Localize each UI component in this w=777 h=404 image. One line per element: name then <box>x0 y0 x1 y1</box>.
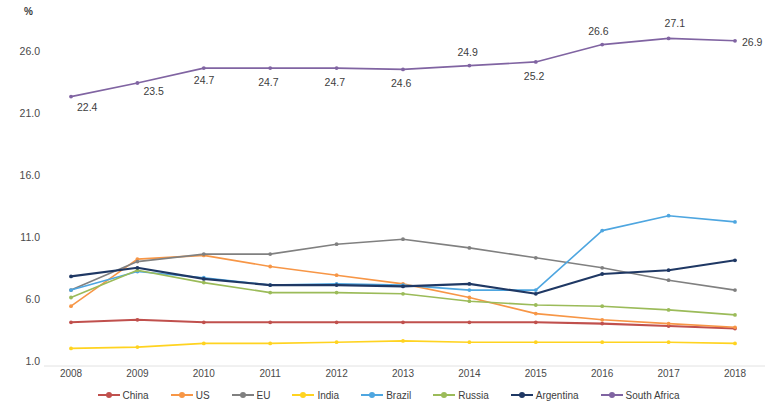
data-point-marker <box>69 275 73 279</box>
data-point-marker <box>534 60 538 64</box>
data-point-marker <box>600 43 604 47</box>
data-point-label: 23.5 <box>143 85 163 97</box>
plot-area <box>0 0 777 404</box>
data-point-marker <box>667 214 671 218</box>
data-point-marker <box>268 291 272 295</box>
data-point-marker <box>401 292 405 296</box>
data-point-marker <box>69 347 73 351</box>
data-point-marker <box>335 320 339 324</box>
data-point-marker <box>600 229 604 233</box>
data-point-marker <box>468 288 472 292</box>
data-point-marker <box>733 258 737 262</box>
data-point-marker <box>335 273 339 277</box>
legend-item-china[interactable]: China <box>98 390 149 401</box>
x-axis-tick-label: 2017 <box>639 368 699 379</box>
legend-item-us[interactable]: US <box>171 390 210 401</box>
series-china <box>69 318 737 331</box>
legend-swatch-icon <box>171 390 193 400</box>
series-brazil <box>69 214 737 292</box>
data-point-marker <box>600 272 604 276</box>
data-point-marker <box>733 39 737 43</box>
data-point-marker <box>136 318 140 322</box>
series-argentina <box>69 258 737 295</box>
data-point-marker <box>69 304 73 308</box>
legend-swatch-icon <box>433 390 455 400</box>
data-point-marker <box>401 339 405 343</box>
legend-item-south-africa[interactable]: South Africa <box>601 390 680 401</box>
data-point-marker <box>202 252 206 256</box>
legend-swatch-icon <box>98 390 120 400</box>
data-point-marker <box>335 283 339 287</box>
data-point-marker <box>202 281 206 285</box>
data-point-label: 27.1 <box>665 17 685 29</box>
data-point-marker <box>335 66 339 70</box>
chart-legend: ChinaUSEUIndiaBrazilRussiaArgentinaSouth… <box>0 386 777 404</box>
data-point-marker <box>468 320 472 324</box>
data-point-marker <box>600 322 604 326</box>
data-point-label: 26.9 <box>742 36 762 48</box>
data-point-marker <box>268 342 272 346</box>
data-point-label: 24.9 <box>457 46 477 58</box>
data-point-label: 24.7 <box>325 76 345 88</box>
data-point-label: 26.6 <box>588 25 608 37</box>
x-axis-tick-label: 2015 <box>506 368 566 379</box>
data-point-marker <box>268 320 272 324</box>
data-point-marker <box>268 283 272 287</box>
data-point-label: 24.6 <box>391 77 411 89</box>
legend-item-argentina[interactable]: Argentina <box>511 390 579 401</box>
data-point-marker <box>401 237 405 241</box>
data-point-marker <box>268 66 272 70</box>
data-point-marker <box>136 266 140 270</box>
x-axis-tick-label: 2012 <box>307 368 367 379</box>
data-point-marker <box>667 37 671 41</box>
x-axis-tick-label: 2011 <box>240 368 300 379</box>
data-point-marker <box>667 308 671 312</box>
x-axis-tick-label: 2018 <box>705 368 765 379</box>
data-point-marker <box>733 325 737 329</box>
data-point-label: 25.2 <box>524 70 544 82</box>
series-us <box>69 254 737 330</box>
data-point-marker <box>401 68 405 72</box>
data-point-marker <box>733 342 737 346</box>
data-point-marker <box>534 303 538 307</box>
data-point-marker <box>468 64 472 68</box>
data-point-marker <box>534 256 538 260</box>
legend-item-russia[interactable]: Russia <box>433 390 489 401</box>
data-point-marker <box>667 268 671 272</box>
data-point-label: 22.4 <box>77 101 97 113</box>
data-point-marker <box>69 288 73 292</box>
data-point-marker <box>667 278 671 282</box>
data-point-marker <box>534 340 538 344</box>
legend-label: Russia <box>458 390 489 401</box>
data-point-marker <box>202 342 206 346</box>
data-point-marker <box>534 292 538 296</box>
data-point-marker <box>202 66 206 70</box>
legend-label: South Africa <box>626 390 680 401</box>
data-point-marker <box>600 266 604 270</box>
legend-label: Argentina <box>536 390 579 401</box>
data-point-marker <box>468 296 472 300</box>
x-axis-tick-label: 2013 <box>373 368 433 379</box>
series-russia <box>69 268 737 316</box>
x-axis-tick-label: 2010 <box>174 368 234 379</box>
data-point-marker <box>401 285 405 289</box>
data-point-marker <box>202 320 206 324</box>
data-point-label: 24.7 <box>258 76 278 88</box>
data-point-marker <box>667 340 671 344</box>
legend-item-brazil[interactable]: Brazil <box>361 390 411 401</box>
data-point-marker <box>335 242 339 246</box>
data-point-marker <box>401 320 405 324</box>
legend-item-india[interactable]: India <box>292 390 339 401</box>
x-axis-tick-label: 2014 <box>439 368 499 379</box>
data-point-marker <box>136 81 140 85</box>
legend-item-eu[interactable]: EU <box>232 390 271 401</box>
legend-swatch-icon <box>361 390 383 400</box>
data-point-label: 24.7 <box>194 74 214 86</box>
legend-swatch-icon <box>511 390 533 400</box>
data-point-marker <box>600 340 604 344</box>
legend-swatch-icon <box>232 390 254 400</box>
data-point-marker <box>534 288 538 292</box>
data-point-marker <box>136 345 140 349</box>
x-axis-tick-label: 2016 <box>572 368 632 379</box>
data-point-marker <box>69 320 73 324</box>
